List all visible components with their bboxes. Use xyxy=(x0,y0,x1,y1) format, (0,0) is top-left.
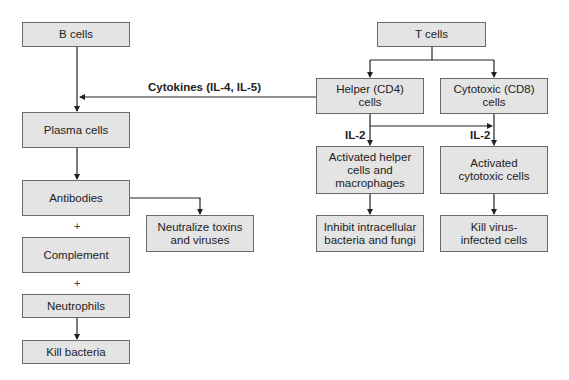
b-cells-label: B cells xyxy=(59,28,93,41)
activated-cytotoxic-node: Activated cytotoxic cells xyxy=(440,146,548,194)
neutrophils-node: Neutrophils xyxy=(22,294,130,318)
kill-bacteria-label: Kill bacteria xyxy=(46,346,105,359)
il2-label-left: IL-2 xyxy=(345,129,365,141)
inhibit-label: Inhibit intracellular bacteria and fungi xyxy=(321,221,419,247)
plus-sign-1: + xyxy=(74,220,80,232)
cytotoxic-cd8-node: Cytotoxic (CD8) cells xyxy=(440,78,548,114)
inhibit-node: Inhibit intracellular bacteria and fungi xyxy=(316,215,424,252)
t-cells-label: T cells xyxy=(415,28,448,41)
kill-virus-node: Kill virus-infected cells xyxy=(440,215,548,252)
antibodies-label: Antibodies xyxy=(49,192,103,205)
il2-label-right: IL-2 xyxy=(470,129,490,141)
activated-cytotoxic-label: Activated cytotoxic cells xyxy=(455,157,533,183)
neutralize-label: Neutralize toxins and viruses xyxy=(153,221,247,247)
b-cells-node: B cells xyxy=(22,22,130,47)
plasma-cells-node: Plasma cells xyxy=(22,112,130,148)
plasma-cells-label: Plasma cells xyxy=(44,124,109,137)
t-cells-node: T cells xyxy=(377,22,486,47)
kill-bacteria-node: Kill bacteria xyxy=(22,340,130,364)
helper-cd4-label: Helper (CD4) cells xyxy=(331,83,409,109)
helper-cd4-node: Helper (CD4) cells xyxy=(316,78,424,114)
neutralize-node: Neutralize toxins and viruses xyxy=(146,215,254,252)
neutrophils-label: Neutrophils xyxy=(47,300,105,313)
plus-sign-2: + xyxy=(74,277,80,289)
activated-helper-node: Activated helper cells and macrophages xyxy=(316,146,424,194)
activated-helper-label: Activated helper cells and macrophages xyxy=(325,151,415,190)
cytotoxic-cd8-label: Cytotoxic (CD8) cells xyxy=(449,83,539,109)
cytokines-label: Cytokines (IL-4, IL-5) xyxy=(148,81,261,93)
complement-node: Complement xyxy=(22,237,130,273)
complement-label: Complement xyxy=(43,249,108,262)
antibodies-node: Antibodies xyxy=(22,180,130,216)
kill-virus-label: Kill virus-infected cells xyxy=(455,221,533,247)
